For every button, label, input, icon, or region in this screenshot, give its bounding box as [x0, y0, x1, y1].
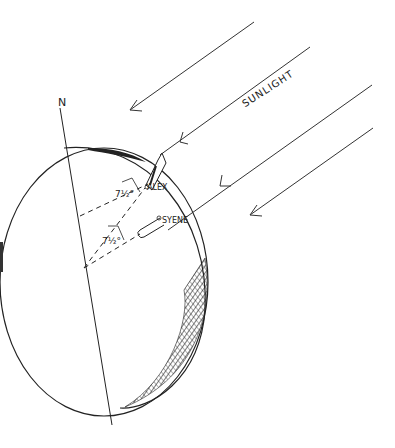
alexandria-label: ALEX	[147, 183, 167, 192]
syene-well	[138, 216, 164, 238]
north-label: N	[58, 96, 66, 109]
angle-alex-label: 7½°	[115, 189, 134, 199]
eratosthenes-diagram: N SUNLIGHT ALEX SYENE 7½° 7½°	[0, 0, 395, 448]
angle-center-label: 7½°	[102, 236, 121, 246]
edge-mark	[0, 242, 3, 272]
diagram-drawing	[0, 0, 395, 448]
syene-label: SYENE	[162, 216, 188, 225]
sun-rays	[130, 22, 373, 230]
